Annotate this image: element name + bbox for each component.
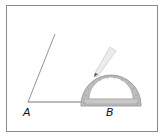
ray-a-upper bbox=[28, 34, 55, 102]
protractor-icon bbox=[81, 75, 141, 106]
point-label-b: B bbox=[106, 107, 114, 118]
pencil-icon bbox=[94, 47, 116, 77]
point-label-a: A bbox=[23, 107, 31, 118]
